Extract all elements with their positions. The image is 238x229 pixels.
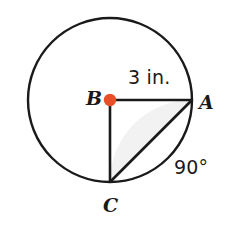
label-point-c: C xyxy=(103,196,118,215)
label-angle-measure: 90° xyxy=(174,158,208,177)
center-point-dot xyxy=(104,94,116,106)
label-point-b: B xyxy=(86,89,102,108)
geometry-figure: B A C 3 in. 90° xyxy=(0,0,238,229)
circle-diagram-svg xyxy=(0,0,238,229)
label-point-a: A xyxy=(199,93,214,112)
label-radius-measure: 3 in. xyxy=(128,68,171,87)
